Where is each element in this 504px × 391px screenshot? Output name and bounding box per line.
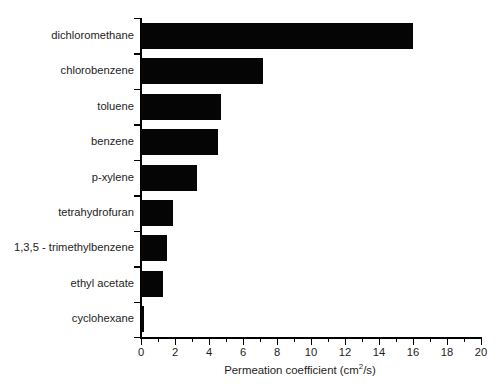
y-axis-tick xyxy=(134,89,140,90)
x-axis-major-tick xyxy=(175,338,176,345)
category-label: ethyl acetate xyxy=(0,278,134,289)
x-axis-tick-label: 18 xyxy=(441,347,453,358)
y-axis-tick xyxy=(134,124,140,125)
x-axis-major-tick xyxy=(447,338,448,345)
y-axis-tick xyxy=(134,266,140,267)
x-axis-tick-label: 0 xyxy=(138,347,144,358)
x-axis-tick-label: 8 xyxy=(274,347,280,358)
x-axis-tick-label: 16 xyxy=(407,347,419,358)
category-label: 1,3,5 - trimethylbenzene xyxy=(0,242,134,253)
y-axis-tick xyxy=(134,195,140,196)
x-axis-minor-tick xyxy=(158,338,159,342)
x-axis-minor-tick xyxy=(192,338,193,342)
x-axis-tick-label: 20 xyxy=(475,347,487,358)
category-label: tetrahydrofuran xyxy=(0,207,134,218)
x-axis-minor-tick xyxy=(226,338,227,342)
x-axis-title-prefix: Permeation coefficient (cm xyxy=(224,364,359,376)
bar xyxy=(141,235,167,261)
x-axis-minor-tick xyxy=(362,338,363,342)
bar xyxy=(141,94,221,120)
x-axis-major-tick xyxy=(481,338,482,345)
y-axis-tick xyxy=(134,53,140,54)
category-label: dichloromethane xyxy=(0,30,134,41)
x-axis-minor-tick xyxy=(464,338,465,342)
x-axis-major-tick xyxy=(311,338,312,345)
x-axis-title: Permeation coefficient (cm2/s) xyxy=(0,364,504,376)
x-axis-tick-label: 14 xyxy=(373,347,385,358)
y-axis-tick xyxy=(134,160,140,161)
x-axis-title-suffix: /s) xyxy=(363,364,376,376)
bar-row xyxy=(141,306,144,332)
x-axis-major-tick xyxy=(379,338,380,345)
bar-row xyxy=(141,200,173,226)
y-axis-tick xyxy=(134,18,140,19)
x-axis-major-tick xyxy=(345,338,346,345)
bar-row xyxy=(141,94,221,120)
bar-row xyxy=(141,58,263,84)
category-label: cyclohexane xyxy=(0,313,134,324)
bar xyxy=(141,129,218,155)
x-axis-tick-label: 12 xyxy=(339,347,351,358)
x-axis-tick-label: 2 xyxy=(172,347,178,358)
x-axis-tick-label: 6 xyxy=(240,347,246,358)
bar-row xyxy=(141,165,197,191)
bar xyxy=(141,58,263,84)
category-label: chlorobenzene xyxy=(0,65,134,76)
x-axis-major-tick xyxy=(209,338,210,345)
y-axis-tick xyxy=(134,231,140,232)
bar-row xyxy=(141,23,413,49)
x-axis-minor-tick xyxy=(294,338,295,342)
bar xyxy=(141,306,144,332)
bar xyxy=(141,271,163,297)
x-axis-minor-tick xyxy=(260,338,261,342)
x-axis-major-tick xyxy=(141,338,142,345)
permeation-coefficient-bar-chart: dichloromethanechlorobenzenetoluenebenze… xyxy=(0,0,504,391)
y-axis-tick xyxy=(134,337,140,338)
bar-row xyxy=(141,235,167,261)
bar-row xyxy=(141,271,163,297)
bar-row xyxy=(141,129,218,155)
x-axis-tick-label: 10 xyxy=(305,347,317,358)
x-axis-major-tick xyxy=(243,338,244,345)
category-label: p-xylene xyxy=(0,172,134,183)
x-axis-tick-label: 4 xyxy=(206,347,212,358)
x-axis-major-tick xyxy=(413,338,414,345)
category-label: toluene xyxy=(0,101,134,112)
bar xyxy=(141,165,197,191)
bar xyxy=(141,23,413,49)
x-axis-minor-tick xyxy=(430,338,431,342)
category-label: benzene xyxy=(0,136,134,147)
y-axis-tick xyxy=(134,302,140,303)
bar xyxy=(141,200,173,226)
x-axis-major-tick xyxy=(277,338,278,345)
x-axis-minor-tick xyxy=(396,338,397,342)
x-axis-minor-tick xyxy=(328,338,329,342)
